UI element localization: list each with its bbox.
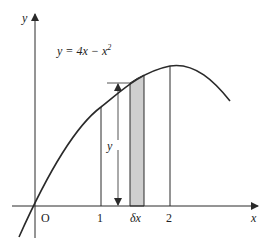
parabola-curve [19, 65, 230, 237]
equation-exponent: 2 [107, 43, 111, 52]
tick-label-1: 1 [97, 211, 103, 225]
tick-label-2: 2 [166, 211, 172, 225]
x-axis-label: x [250, 211, 257, 225]
equation-lhs: y = 4 [56, 44, 82, 58]
equation-minus: − [88, 44, 102, 58]
shaded-strip [130, 75, 144, 206]
curve-equation: y = 4x − x2 [56, 43, 111, 58]
y-axis-label: y [21, 11, 28, 25]
origin-label: O [41, 211, 50, 225]
area-under-curve-diagram: y x O 1 2 δx y y = 4x − x2 [0, 0, 265, 250]
strip-width-label: δx [130, 211, 142, 225]
height-label: y [106, 139, 113, 153]
